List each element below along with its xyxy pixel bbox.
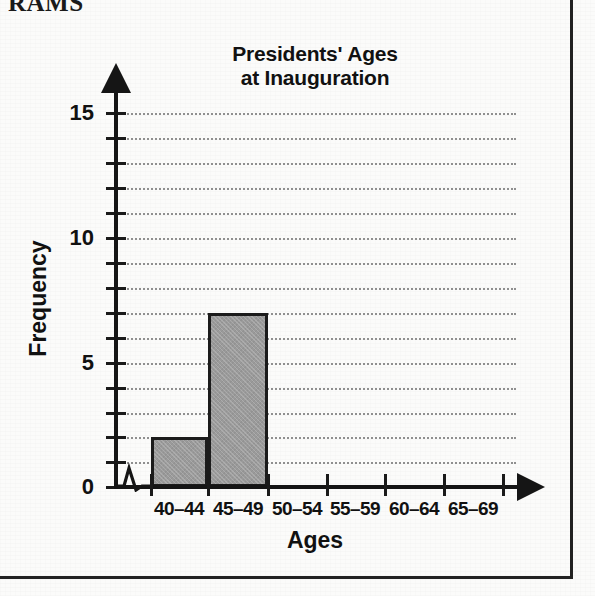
gridline-14 — [116, 138, 516, 140]
gridline-12 — [116, 188, 516, 190]
x-tick-3 — [326, 474, 329, 496]
gridline-5 — [116, 363, 516, 365]
x-tick-1 — [207, 474, 210, 496]
gridline-4 — [116, 388, 516, 390]
bar-45-49 — [208, 313, 268, 487]
x-tick-4 — [384, 474, 387, 496]
gridline-9 — [116, 263, 516, 265]
gridline-10 — [116, 238, 516, 240]
gridline-6 — [116, 338, 516, 340]
axis-break-icon — [116, 462, 154, 492]
gridline-11 — [116, 213, 516, 215]
gridline-13 — [116, 163, 516, 165]
histogram-figure: Presidents' Ages at Inauguration — [0, 0, 570, 576]
gridline-15 — [116, 113, 516, 115]
y-axis-label-15: 15 — [42, 100, 94, 126]
y-axis-label-5: 5 — [50, 350, 94, 376]
gridline-3 — [116, 413, 516, 415]
scanned-page: RAMS Presidents' Ages at Inauguration — [0, 0, 595, 596]
x-axis-line — [114, 485, 520, 489]
bar-40-44 — [151, 437, 208, 487]
x-tick-2 — [267, 474, 270, 496]
x-tick-6 — [502, 474, 505, 496]
gridline-7 — [116, 313, 516, 315]
plot-area: 0 5 10 15 40–44 — [0, 0, 570, 576]
x-axis-title: Ages — [200, 527, 430, 554]
x-tick-5 — [443, 474, 446, 496]
x-axis-arrow-icon — [517, 473, 545, 501]
y-axis-title: Frequency — [25, 199, 52, 399]
page-right-rule — [570, 0, 573, 579]
y-axis-label-0: 0 — [50, 474, 94, 500]
y-axis-line — [114, 88, 118, 489]
x-label-65-69: 65–69 — [438, 498, 508, 520]
y-axis-arrow-icon — [101, 63, 131, 93]
gridline-8 — [116, 288, 516, 290]
x-tick-0 — [150, 474, 153, 496]
page-bottom-rule — [0, 576, 570, 579]
